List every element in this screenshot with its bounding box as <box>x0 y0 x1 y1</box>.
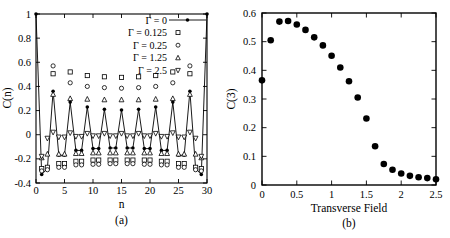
data-point-open-triangle-up <box>187 92 192 97</box>
data-point-filled-circle <box>114 146 118 150</box>
data-point-filled-circle <box>125 146 129 150</box>
y-axis-label: C(n) <box>1 87 14 108</box>
data-point-filled-circle <box>205 12 209 16</box>
y-tick-label: 0.4 <box>18 81 32 92</box>
data-point-open-triangle-up <box>102 97 107 102</box>
legend-label: Γ = 0.125 <box>128 27 167 38</box>
x-tick-label: 30 <box>202 185 213 196</box>
x-tick-label: 1 <box>329 189 334 200</box>
x-tick-label: 0.5 <box>290 189 303 200</box>
data-point-filled-circle <box>294 21 301 28</box>
x-tick-label: 10 <box>88 185 99 196</box>
data-point-open-circle <box>188 64 192 68</box>
data-point-open-triangle-up <box>182 151 187 156</box>
data-point-filled-circle <box>86 105 90 109</box>
data-point-open-circle <box>91 162 95 166</box>
data-point-open-circle <box>182 165 186 169</box>
data-point-open-square <box>142 158 146 162</box>
data-point-open-triangle-up <box>153 96 158 101</box>
y-tick-label: -0.2 <box>14 153 31 164</box>
y-tick-label: 0.1 <box>243 151 256 162</box>
data-point-filled-circle <box>186 18 190 22</box>
data-point-open-triangle-up <box>165 151 170 156</box>
panel-label: (a) <box>115 214 128 227</box>
figure-two-panel-plot: 051015202530-0.4-0.200.20.40.60.81nC(n)(… <box>0 0 450 238</box>
data-point-open-square <box>176 31 180 35</box>
data-point-filled-circle <box>424 175 431 182</box>
data-point-open-triangle-up <box>170 96 175 101</box>
data-point-open-circle <box>199 169 203 173</box>
data-point-open-circle <box>154 84 158 88</box>
data-point-open-triangle-up <box>51 92 56 97</box>
data-point-open-triangle-up <box>68 96 73 101</box>
series-filled-circle <box>34 12 209 176</box>
data-point-open-triangle-up <box>73 151 78 156</box>
data-point-open-circle <box>125 162 129 166</box>
data-point-open-triangle-down <box>85 131 90 136</box>
data-point-open-circle <box>159 163 163 167</box>
data-point-open-circle <box>97 162 101 166</box>
data-point-open-circle <box>80 163 84 167</box>
data-point-filled-circle <box>131 146 135 150</box>
data-point-filled-circle <box>267 37 274 44</box>
data-point-filled-circle <box>433 176 440 183</box>
data-point-filled-circle <box>389 167 396 174</box>
data-point-filled-circle <box>398 170 405 177</box>
data-point-open-circle <box>51 64 55 68</box>
legend: Γ = 0Γ = 0.125Γ = 0.25Γ = 1.25Γ = 2.5 <box>128 15 206 76</box>
data-point-open-circle <box>165 163 169 167</box>
data-point-open-circle <box>137 86 141 90</box>
data-point-open-circle <box>74 163 78 167</box>
data-point-filled-circle <box>320 42 327 49</box>
y-tick-label: 0.2 <box>243 122 256 133</box>
legend-label: Γ = 0 <box>146 15 167 26</box>
x-tick-label: 0 <box>259 189 264 200</box>
data-point-open-circle <box>108 162 112 166</box>
data-point-open-square <box>91 158 95 162</box>
x-tick-label: 20 <box>145 185 156 196</box>
data-point-open-circle <box>102 86 106 90</box>
chart-panel-a: 051015202530-0.4-0.200.20.40.60.81nC(n)(… <box>1 9 212 227</box>
data-point-open-triangle-up <box>193 151 198 156</box>
figure-svg: 051015202530-0.4-0.200.20.40.60.81nC(n)(… <box>0 0 450 238</box>
data-point-open-triangle-up <box>96 150 101 155</box>
data-point-open-triangle-down <box>136 131 141 136</box>
chart-panel-b: 00.511.522.500.10.20.30.40.50.6Transvers… <box>225 8 443 230</box>
data-point-open-triangle-down <box>68 131 73 136</box>
y-tick-label: 1 <box>26 9 31 20</box>
legend-entry: Γ = 0.25 <box>133 40 180 51</box>
data-point-open-square <box>85 73 89 77</box>
y-tick-label: 0.6 <box>18 57 31 68</box>
x-tick-label: 25 <box>173 185 184 196</box>
data-point-open-circle <box>57 165 61 169</box>
data-point-open-triangle-down <box>153 131 158 136</box>
data-point-open-circle <box>142 162 146 166</box>
data-point-open-triangle-up <box>176 151 181 156</box>
y-tick-label: 0.5 <box>243 36 256 47</box>
data-point-filled-circle <box>415 174 422 181</box>
data-point-open-circle <box>148 162 152 166</box>
data-point-open-triangle-up <box>148 150 153 155</box>
data-point-filled-circle <box>285 18 292 25</box>
data-point-open-triangle-up <box>45 151 50 156</box>
y-tick-label: 0.6 <box>243 8 256 19</box>
data-point-open-circle <box>176 43 180 47</box>
data-point-open-square <box>102 75 106 79</box>
x-tick-label: 0 <box>33 185 38 196</box>
data-point-open-triangle-down <box>51 130 56 135</box>
x-tick-label: 2.5 <box>429 189 442 200</box>
data-point-open-triangle-up <box>56 151 61 156</box>
data-point-open-circle <box>85 84 89 88</box>
data-point-filled-circle <box>337 64 344 71</box>
data-point-open-triangle-up <box>159 151 164 156</box>
data-point-open-circle <box>171 81 175 85</box>
data-point-filled-circle <box>372 143 379 150</box>
y-tick-label: 0 <box>251 180 256 191</box>
data-point-open-triangle-up <box>119 97 124 102</box>
data-point-open-triangle-up <box>136 97 141 102</box>
data-point-open-triangle-down <box>170 131 175 136</box>
x-tick-label: 1.5 <box>360 189 373 200</box>
data-point-open-triangle-up <box>91 150 96 155</box>
data-point-open-triangle-down <box>176 68 181 73</box>
data-point-open-circle <box>40 169 44 173</box>
